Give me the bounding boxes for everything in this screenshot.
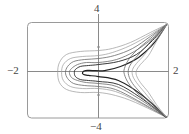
curve-right-family-1: [124, 24, 167, 117]
y-max-label: 4: [94, 3, 100, 14]
curve-family: [58, 24, 167, 117]
x-min-label: −2: [7, 65, 19, 76]
x-max-label: 2: [173, 65, 179, 76]
level-curves-plot: [0, 0, 189, 134]
y-min-label: −4: [90, 121, 102, 132]
